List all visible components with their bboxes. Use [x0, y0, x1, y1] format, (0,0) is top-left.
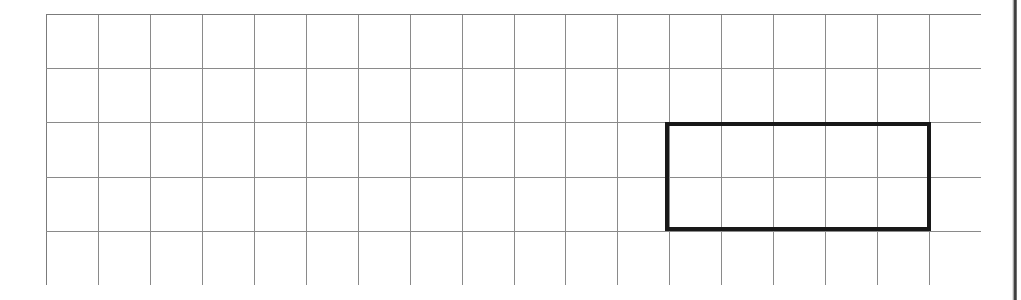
rectangle-shape [665, 122, 931, 231]
page-edge-shadow [1012, 0, 1017, 300]
scanned-page [0, 0, 1021, 300]
